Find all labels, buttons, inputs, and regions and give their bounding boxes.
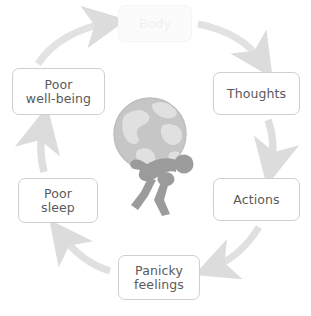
node-panicky-feelings[interactable]: Panicky feelings (118, 255, 200, 300)
arrow-wellbeing-to-body (38, 23, 108, 64)
node-poor-sleep-label: Poor sleep (41, 187, 75, 215)
node-panicky-feelings-label: Panicky feelings (134, 264, 184, 292)
globe-icon (114, 98, 186, 170)
person-carrying-globe-illustration (108, 92, 212, 216)
node-poor-well-being-label: Poor well-being (26, 78, 91, 106)
arrow-thoughts-to-actions (268, 120, 273, 166)
arrow-actions-to-panicky (212, 227, 259, 268)
node-body-label: Body (139, 17, 171, 31)
arrow-panicky-to-sleep (61, 235, 110, 271)
person-silhouette (130, 155, 193, 217)
cycle-diagram: Body Thoughts Actions Panicky feelings P… (0, 0, 311, 316)
node-body[interactable]: Body (118, 5, 192, 42)
node-thoughts-label: Thoughts (227, 87, 286, 101)
node-thoughts[interactable]: Thoughts (213, 72, 300, 115)
node-poor-well-being[interactable]: Poor well-being (12, 68, 105, 115)
node-actions[interactable]: Actions (213, 178, 300, 221)
arrow-body-to-thoughts (198, 24, 262, 62)
node-poor-sleep[interactable]: Poor sleep (18, 178, 98, 223)
node-actions-label: Actions (233, 193, 279, 207)
arrow-sleep-to-wellbeing (41, 126, 44, 172)
